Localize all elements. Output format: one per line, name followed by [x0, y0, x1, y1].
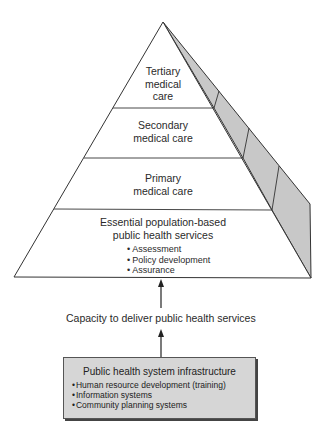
bullet-item: Community planning systems: [72, 400, 226, 410]
level-tertiary-label: Tertiary medical care: [123, 65, 203, 103]
level-essential-services-label: Essential population-based public health…: [73, 216, 253, 241]
essential-services-bullets: Assessment Policy development Assurance: [127, 244, 210, 276]
arrow-up-icon: [158, 329, 164, 357]
level-secondary-label: Secondary medical care: [103, 119, 223, 144]
bullet-item: Assurance: [127, 265, 210, 276]
arrow-up-icon: [158, 279, 164, 308]
level-primary-label: Primary medical care: [103, 172, 223, 197]
infrastructure-title: Public health system infrastructure: [64, 366, 255, 377]
bullet-item: Policy development: [127, 255, 210, 266]
infrastructure-bullets: Human resource development (training) In…: [72, 380, 226, 410]
bullet-item: Assessment: [127, 244, 210, 255]
capacity-caption: Capacity to deliver public health servic…: [66, 312, 256, 324]
bullet-item: Human resource development (training): [72, 380, 226, 390]
infrastructure-box: Public health system infrastructure Huma…: [63, 357, 256, 419]
bullet-item: Information systems: [72, 390, 226, 400]
